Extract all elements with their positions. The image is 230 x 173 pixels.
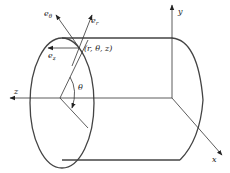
e-r-label: er	[91, 16, 99, 26]
x-axis-label: x	[212, 155, 217, 164]
e-theta-vector	[56, 15, 78, 46]
theta-arc	[70, 77, 75, 108]
point-label: (r, θ, z)	[84, 44, 112, 53]
z-axis-label: z	[13, 87, 19, 96]
front-face-ellipse	[30, 38, 94, 168]
e-r-vector	[72, 15, 92, 66]
e-z-label: ez	[48, 51, 56, 61]
cylinder-diagram: eθ er ez (r, θ, z) θ z y x	[0, 0, 230, 173]
x-axis	[172, 98, 222, 155]
y-axis-label: y	[177, 7, 183, 16]
radius-line	[60, 98, 88, 128]
theta-label: θ	[78, 83, 83, 92]
e-theta-label: eθ	[44, 9, 53, 19]
